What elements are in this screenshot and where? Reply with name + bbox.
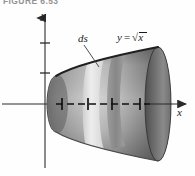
radical-bar (139, 32, 147, 33)
figure-illustration (0, 0, 195, 176)
x-axis-label: x (177, 107, 182, 118)
square-root-icon: √x (132, 32, 143, 43)
ds-label: ds (78, 33, 88, 44)
figure-container: FIGURE 6.53 (0, 0, 195, 176)
y-axis-label: y (41, 10, 46, 21)
curve-equation-equals: = (122, 31, 132, 43)
curve-equation-label: y=√x (117, 32, 143, 43)
